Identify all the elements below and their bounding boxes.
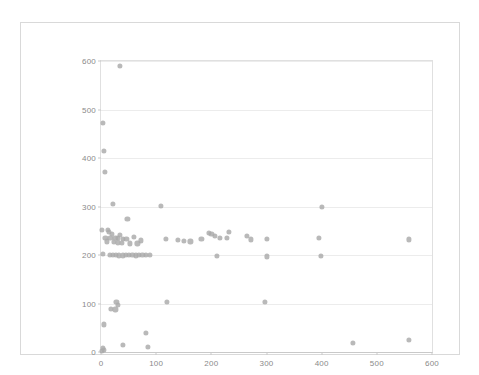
scatter-point[interactable] bbox=[181, 238, 186, 243]
x-tick-mark-200 bbox=[211, 352, 212, 355]
x-tick-label-0: 0 bbox=[99, 359, 104, 368]
scatter-point[interactable] bbox=[113, 307, 118, 312]
scatter-point[interactable] bbox=[144, 330, 149, 335]
y-tick-mark-400 bbox=[98, 158, 101, 159]
y-tick-mark-100 bbox=[98, 303, 101, 304]
scatter-point[interactable] bbox=[145, 345, 150, 350]
y-tick-label-300: 300 bbox=[82, 202, 96, 211]
scatter-point[interactable] bbox=[101, 322, 106, 327]
scatter-point[interactable] bbox=[132, 234, 137, 239]
scatter-point[interactable] bbox=[125, 217, 130, 222]
y-tick-label-600: 600 bbox=[82, 57, 96, 66]
scatter-point[interactable] bbox=[316, 235, 321, 240]
scatter-point[interactable] bbox=[406, 237, 411, 242]
scatter-point[interactable] bbox=[318, 253, 323, 258]
gridline-y-500 bbox=[101, 110, 432, 111]
scatter-point[interactable] bbox=[214, 253, 219, 258]
gridline-y-400 bbox=[101, 158, 432, 159]
x-tick-label-400: 400 bbox=[315, 359, 329, 368]
scatter-point[interactable] bbox=[127, 241, 132, 246]
scatter-point[interactable] bbox=[406, 337, 411, 342]
screenshot-root: 0100200300400500600 0100200300400500600 bbox=[0, 0, 479, 375]
x-tick-mark-400 bbox=[321, 352, 322, 355]
scatter-point[interactable] bbox=[119, 240, 124, 245]
scatter-point[interactable] bbox=[118, 63, 123, 68]
x-tick-mark-300 bbox=[266, 352, 267, 355]
x-tick-label-500: 500 bbox=[370, 359, 384, 368]
x-tick-mark-500 bbox=[376, 352, 377, 355]
scatter-point[interactable] bbox=[147, 252, 152, 257]
scatter-point[interactable] bbox=[164, 236, 169, 241]
x-tick-label-200: 200 bbox=[204, 359, 218, 368]
scatter-point[interactable] bbox=[176, 237, 181, 242]
gridline-y-300 bbox=[101, 207, 432, 208]
scatter-point[interactable] bbox=[319, 204, 324, 209]
y-tick-mark-600 bbox=[98, 61, 101, 62]
scatter-point[interactable] bbox=[264, 236, 269, 241]
y-tick-label-500: 500 bbox=[82, 105, 96, 114]
scatter-point[interactable] bbox=[199, 236, 204, 241]
scatter-point[interactable] bbox=[138, 238, 143, 243]
x-tick-label-100: 100 bbox=[149, 359, 163, 368]
y-tick-mark-300 bbox=[98, 206, 101, 207]
scatter-point[interactable] bbox=[102, 149, 107, 154]
scatter-point[interactable] bbox=[188, 239, 193, 244]
x-tick-mark-600 bbox=[432, 352, 433, 355]
x-tick-mark-100 bbox=[156, 352, 157, 355]
scatter-point[interactable] bbox=[224, 235, 229, 240]
scatter-point[interactable] bbox=[248, 237, 253, 242]
y-tick-label-100: 100 bbox=[82, 299, 96, 308]
y-tick-mark-500 bbox=[98, 109, 101, 110]
scatter-point[interactable] bbox=[351, 341, 356, 346]
x-tick-label-300: 300 bbox=[260, 359, 274, 368]
scatter-point[interactable] bbox=[102, 169, 107, 174]
scatter-point[interactable] bbox=[100, 348, 105, 353]
scatter-point[interactable] bbox=[226, 230, 231, 235]
scatter-point[interactable] bbox=[264, 254, 269, 259]
y-tick-label-0: 0 bbox=[91, 348, 96, 357]
scatter-plot-area[interactable]: 0100200300400500600 0100200300400500600 bbox=[100, 60, 433, 353]
y-tick-label-200: 200 bbox=[82, 251, 96, 260]
gridline-y-600 bbox=[101, 61, 432, 62]
x-tick-label-600: 600 bbox=[425, 359, 439, 368]
scatter-point[interactable] bbox=[120, 343, 125, 348]
chart-frame: 0100200300400500600 0100200300400500600 bbox=[20, 22, 460, 355]
y-tick-label-400: 400 bbox=[82, 154, 96, 163]
scatter-point[interactable] bbox=[100, 120, 105, 125]
scatter-point[interactable] bbox=[217, 235, 222, 240]
scatter-point[interactable] bbox=[104, 239, 109, 244]
scatter-point[interactable] bbox=[100, 227, 105, 232]
